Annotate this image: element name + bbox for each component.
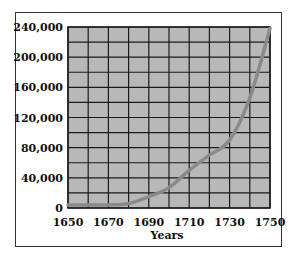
y-tick-label: 120,000 xyxy=(13,112,63,125)
x-tick-label: 1650 xyxy=(53,216,84,229)
y-tick-label: 240,000 xyxy=(13,21,63,34)
y-axis-tick-labels: 040,00080,000120,000160,000200,000240,00… xyxy=(13,21,63,215)
x-tick-label: 1670 xyxy=(93,216,124,229)
y-tick-label: 200,000 xyxy=(13,51,63,64)
x-tick-label: 1750 xyxy=(255,216,286,229)
x-tick-label: 1730 xyxy=(214,216,245,229)
y-tick-label: 0 xyxy=(55,202,63,215)
line-chart: 040,00080,000120,000160,000200,000240,00… xyxy=(0,0,298,262)
y-tick-label: 80,000 xyxy=(21,142,63,155)
x-tick-label: 1690 xyxy=(133,216,164,229)
x-tick-label: 1710 xyxy=(174,216,205,229)
y-tick-label: 40,000 xyxy=(21,172,63,185)
x-axis-tick-labels: 165016701690171017301750 xyxy=(53,216,286,229)
y-tick-label: 160,000 xyxy=(13,81,63,94)
x-axis-title: Years xyxy=(149,229,183,242)
